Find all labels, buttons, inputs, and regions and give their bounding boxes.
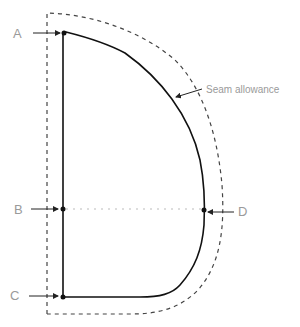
seam-allowance-outline	[47, 13, 223, 314]
point-d	[202, 208, 207, 213]
label-b: B	[14, 202, 23, 217]
point-a	[62, 31, 67, 36]
pattern-diagram: A B C D Seam allowance	[0, 0, 300, 327]
point-c	[61, 295, 66, 300]
pattern-outline	[63, 32, 205, 297]
label-c: C	[10, 288, 19, 303]
label-a: A	[13, 26, 22, 41]
label-d: D	[238, 204, 247, 219]
point-b	[61, 207, 66, 212]
seam-allowance-label: Seam allowance	[206, 84, 280, 95]
